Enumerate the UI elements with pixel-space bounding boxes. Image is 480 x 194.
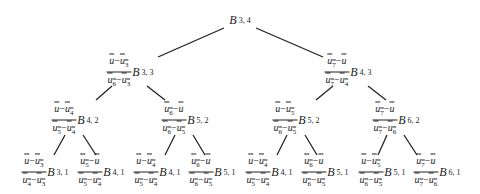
node-l3-5: u6−u u6−u5 B5, 1 — [302, 155, 349, 190]
node-l2-2: u−u5 u6−u5 B5, 2 — [273, 103, 320, 138]
coefficient-fraction: u7−u u7−u4 — [325, 55, 350, 90]
coefficient-fraction: u−u4 u5−u4 — [246, 155, 271, 190]
coefficient-fraction: u−u4 u5−u4 — [134, 155, 159, 190]
node-l2-0: u−u4 u5−u4 B4, 2 — [52, 103, 99, 138]
coefficient-fraction: u7−u u7−u6 — [414, 155, 439, 190]
coefficient-fraction: u−u4 u5−u4 — [52, 103, 77, 138]
edge-l2d-l3g — [378, 135, 387, 155]
edge-root-left — [158, 28, 224, 57]
node-l3-1: u5−u u5−u4 B4, 1 — [78, 155, 125, 190]
node-l3-4: u−u4 u5−u4 B4, 1 — [246, 155, 293, 190]
edge-l2b-l3c — [165, 135, 175, 155]
edge-l2b-l3d — [193, 135, 205, 155]
coefficient-fraction: u−u3 u6−u3 — [107, 55, 132, 90]
coefficient-fraction: u7−u u7−u6 — [373, 103, 398, 138]
edge-l2a-l3b — [83, 135, 96, 155]
edge-l2d-l3h — [404, 135, 417, 155]
node-root: B3, 4 — [229, 13, 250, 28]
coefficient-fraction: u5−u u5−u4 — [78, 155, 103, 190]
basis-label: B — [229, 13, 236, 28]
coefficient-fraction: u−u3 u4−u3 — [22, 155, 47, 190]
edge-l2c-l3f — [305, 135, 317, 155]
node-l1-0: u−u3 u6−u3 B3, 3 — [107, 55, 154, 90]
node-l2-3: u7−u u7−u6 B6, 2 — [373, 103, 420, 138]
coefficient-fraction: u6−u u6−u5 — [162, 103, 187, 138]
edge-l2c-l3e — [277, 135, 287, 155]
node-l3-6: u−u5 u6−u5 B5, 1 — [359, 155, 406, 190]
tree-edges — [0, 0, 480, 194]
basis-subscript: 3, 4 — [239, 16, 251, 25]
node-l2-1: u6−u u6−u5 B5, 2 — [162, 103, 209, 138]
coefficient-fraction: u6−u u6−u5 — [302, 155, 327, 190]
coefficient-fraction: u−u5 u6−u5 — [359, 155, 384, 190]
node-l3-3: u6−u u6−u5 B5, 1 — [189, 155, 236, 190]
edge-root-right — [256, 28, 323, 57]
node-l3-2: u−u4 u5−u4 B4, 1 — [134, 155, 181, 190]
coefficient-fraction: u−u5 u6−u5 — [273, 103, 298, 138]
node-l1-1: u7−u u7−u4 B4, 3 — [325, 55, 372, 90]
edge-l2a-l3a — [54, 135, 65, 155]
node-l3-0: u−u3 u4−u3 B3, 1 — [22, 155, 69, 190]
node-l3-7: u7−u u7−u6 B6, 1 — [414, 155, 461, 190]
coefficient-fraction: u6−u u6−u5 — [189, 155, 214, 190]
